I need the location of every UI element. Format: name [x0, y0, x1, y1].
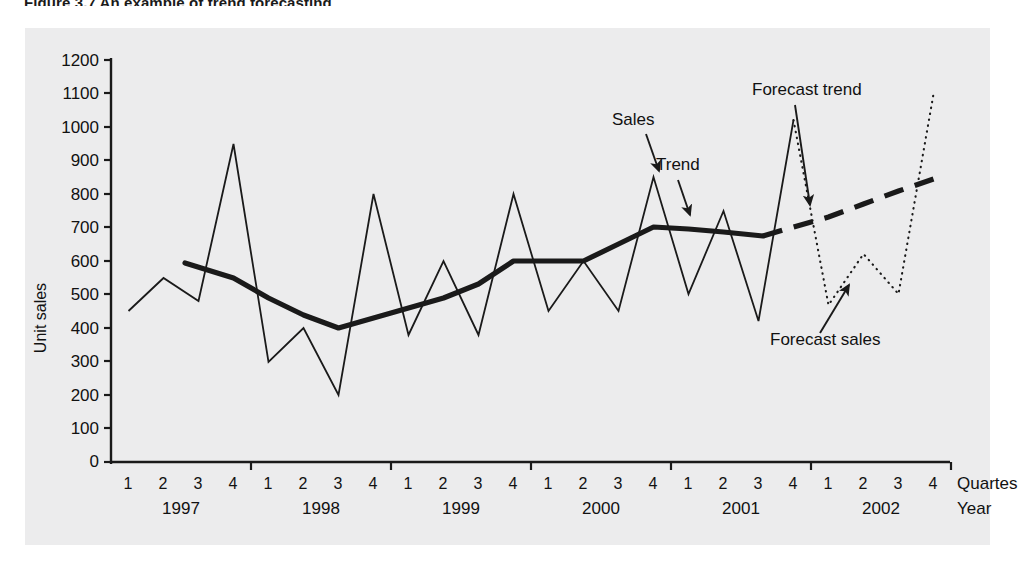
annotation-forecast-sales-label: Forecast sales	[770, 330, 881, 349]
ytick-900: 900	[71, 151, 99, 170]
annotation-trend-label: Trend	[656, 155, 700, 174]
xtick-q-2002-3: 3	[894, 475, 903, 492]
ytick-1000: 1000	[61, 118, 99, 137]
xtick-q-1998-2: 2	[299, 475, 308, 492]
xtick-q-2000-2: 2	[579, 475, 588, 492]
annotation-forecast-trend-arrow-icon	[795, 105, 810, 205]
xtick-q-1997-3: 3	[194, 475, 203, 492]
annotation-forecast-trend: Forecast trend	[752, 80, 862, 205]
xtick-q-1999-3: 3	[474, 475, 483, 492]
ytick-300: 300	[71, 352, 99, 371]
x-axis-title-year: Year	[957, 499, 992, 518]
trend-forecast-chart: 0 100 200 300 400 500 600 700 800 900 10…	[0, 0, 1023, 563]
xtick-q-1999-4: 4	[509, 475, 518, 492]
xtick-year-1998: 1998	[302, 499, 340, 518]
xtick-q-2000-4: 4	[649, 475, 658, 492]
annotation-sales-label: Sales	[612, 110, 655, 129]
series-trend-line	[185, 227, 763, 328]
annotation-forecast-trend-label: Forecast trend	[752, 80, 862, 99]
xtick-year-2001: 2001	[722, 499, 760, 518]
xtick-q-2001-1: 1	[684, 475, 693, 492]
xtick-q-2000-3: 3	[614, 475, 623, 492]
ytick-500: 500	[71, 285, 99, 304]
xtick-q-1998-1: 1	[264, 475, 273, 492]
annotation-forecast-sales-arrow-icon	[820, 285, 849, 333]
ytick-0: 0	[90, 452, 99, 471]
ytick-1100: 1100	[62, 84, 99, 103]
series-forecast-trend-line	[763, 179, 934, 236]
xtick-q-2001-4: 4	[789, 475, 798, 492]
ytick-200: 200	[71, 386, 99, 405]
xtick-q-1999-2: 2	[439, 475, 448, 492]
x-axis: 1 2 3 4 1 2 3 4 1 2 3 4 1 2 3 4 1 2 3 4 …	[111, 462, 1017, 518]
xtick-q-2000-1: 1	[544, 475, 553, 492]
annotation-sales: Sales	[612, 110, 659, 171]
xtick-q-2002-4: 4	[929, 475, 938, 492]
ytick-700: 700	[71, 218, 99, 237]
series-forecast-sales-line	[794, 94, 934, 305]
y-axis-title: Unit sales	[32, 283, 49, 353]
xtick-q-1997-2: 2	[159, 475, 168, 492]
xtick-year-1999: 1999	[442, 499, 480, 518]
xtick-year-1997: 1997	[162, 499, 200, 518]
xtick-year-2002: 2002	[862, 499, 900, 518]
xtick-q-1998-4: 4	[369, 475, 378, 492]
ytick-400: 400	[71, 319, 99, 338]
xtick-q-2002-2: 2	[859, 475, 868, 492]
x-axis-title-quarters: Quartes	[957, 474, 1017, 493]
xtick-q-1997-4: 4	[229, 475, 238, 492]
xtick-q-1998-3: 3	[334, 475, 343, 492]
ytick-1200: 1200	[61, 51, 99, 70]
xtick-year-2000: 2000	[582, 499, 620, 518]
annotation-trend-arrow-icon	[678, 180, 690, 215]
ytick-800: 800	[71, 185, 99, 204]
ytick-600: 600	[71, 252, 99, 271]
annotation-forecast-sales: Forecast sales	[770, 285, 881, 349]
xtick-q-2001-3: 3	[754, 475, 763, 492]
xtick-q-1999-1: 1	[404, 475, 413, 492]
ytick-100: 100	[71, 419, 99, 438]
xtick-q-2002-1: 1	[824, 475, 833, 492]
xtick-q-2001-2: 2	[719, 475, 728, 492]
y-axis: 0 100 200 300 400 500 600 700 800 900 10…	[32, 51, 111, 471]
xtick-q-1997-1: 1	[124, 475, 133, 492]
